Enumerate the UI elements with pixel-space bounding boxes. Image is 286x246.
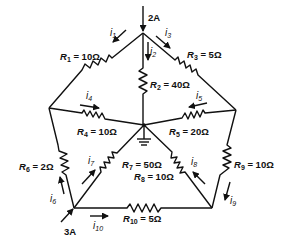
resistor-r5 [144,110,236,125]
i10-label: i10 [93,220,103,232]
source-3a-arrow-icon [61,209,73,222]
r7-label: R7 = 50Ω [122,159,162,171]
resistor-r10 [74,204,212,212]
i2-label: i2 [150,46,156,58]
resistor-r9 [212,110,236,208]
r9-label: R9 = 10Ω [234,159,274,171]
i9-label: i9 [230,195,236,207]
r6-label: R6 = 2Ω [19,161,54,173]
r1-label: R1 = 10Ω [60,51,100,63]
resistor-r6 [49,108,74,208]
resistor-r1 [49,33,143,108]
r8-label: R8 = 10Ω [134,171,174,183]
i1-label: i1 [110,27,116,39]
i8-arrow-icon [193,172,205,184]
r4-label: R4 = 10Ω [77,126,117,138]
r5-label: R5 = 20Ω [169,126,209,138]
r2-label: R2 = 40Ω [150,79,190,91]
resistor-r2 [139,33,147,125]
i4-arrow-icon [80,105,99,108]
circuit-diagram: 2A 3A i1 i2 i3 i4 i5 i6 i7 i8 i9 i10 R1 … [0,0,286,246]
source-3a-label: 3A [64,226,76,237]
i6-arrow-icon [60,177,64,194]
i3-label: i3 [165,27,171,39]
r3-label: R3 = 5Ω [187,49,222,61]
i5-label: i5 [196,90,202,102]
i8-label: i8 [191,156,197,168]
center-node [142,123,146,127]
source-2a-label: 2A [148,12,160,23]
r10-label: R10 = 5Ω [123,213,162,225]
resistor-r3 [143,33,236,110]
resistor-r4 [49,108,144,125]
i7-label: i7 [88,155,95,167]
ground-icon [137,125,151,145]
i5-arrow-icon [189,103,207,107]
i6-label: i6 [50,193,56,205]
i4-label: i4 [86,90,92,102]
